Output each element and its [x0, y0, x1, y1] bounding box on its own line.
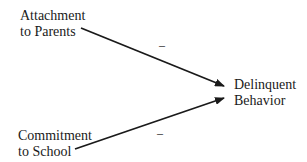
node-commitment-line1: Commitment [18, 128, 92, 144]
node-attachment-line2: to Parents [20, 24, 85, 40]
node-commitment-line2: to School [18, 144, 92, 160]
node-attachment-line1: Attachment [20, 8, 85, 24]
node-delinquent: Delinquent Behavior [234, 77, 296, 109]
node-delinquent-line2: Behavior [234, 93, 296, 109]
arrow-attachment-to-delinquent [81, 28, 224, 86]
arrow-commitment-to-delinquent [75, 98, 224, 149]
edge-sign-attachment: – [159, 38, 165, 53]
node-attachment: Attachment to Parents [20, 8, 85, 40]
node-delinquent-line1: Delinquent [234, 77, 296, 93]
node-commitment: Commitment to School [18, 128, 92, 160]
edge-sign-commitment: – [157, 126, 163, 141]
